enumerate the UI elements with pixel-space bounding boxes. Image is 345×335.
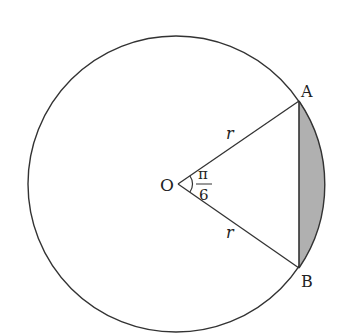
label-r-bottom: r [226, 223, 235, 242]
angle-denominator: 6 [199, 186, 209, 204]
angle-numerator: π [198, 165, 208, 183]
label-o: O [160, 175, 174, 195]
radius-oa [178, 101, 299, 184]
shaded-segment [299, 101, 325, 268]
angle-arc [190, 176, 193, 192]
circle-diagram: O A B r r π 6 [0, 0, 345, 335]
label-a: A [300, 82, 313, 101]
radius-ob [178, 184, 299, 268]
label-r-top: r [226, 124, 235, 143]
circle [28, 36, 324, 332]
label-b: B [301, 272, 313, 291]
